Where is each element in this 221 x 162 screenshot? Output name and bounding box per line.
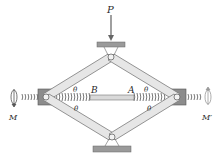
center-rod: [90, 95, 134, 100]
pin-right: [174, 94, 180, 100]
moment-right-label: M′: [201, 113, 212, 122]
bottom-support-left: [105, 139, 109, 146]
pin-left: [43, 94, 49, 100]
bottom-plate: [93, 146, 131, 152]
right-outer-thread: [188, 94, 201, 100]
point-a-label: A: [127, 85, 135, 95]
bottom-support-right: [115, 139, 119, 146]
top-plate: [97, 42, 125, 47]
moment-left-icon: [11, 89, 17, 107]
right-inner-thread: [134, 93, 165, 101]
top-support-left: [104, 47, 108, 55]
left-outer-thread: [22, 94, 38, 100]
moment-left-label: M: [8, 113, 18, 122]
point-b-label: B: [90, 85, 98, 95]
angle-label-upper-right: θ: [144, 86, 149, 94]
pin-top: [108, 54, 114, 60]
link-upper-left: [43, 54, 114, 100]
link-lower-right: [109, 94, 180, 140]
angle-label-upper-left: θ: [73, 86, 78, 94]
link-lower-left: [43, 94, 115, 140]
moment-right-icon: [205, 87, 211, 105]
load-label: P: [106, 4, 114, 15]
load-arrow-icon: [108, 35, 114, 41]
left-inner-thread: [56, 93, 90, 101]
pin-bottom: [109, 134, 115, 140]
top-support-right: [114, 47, 118, 55]
scissor-jack-diagram: P B A θ θ θ θ M M′: [0, 0, 221, 162]
